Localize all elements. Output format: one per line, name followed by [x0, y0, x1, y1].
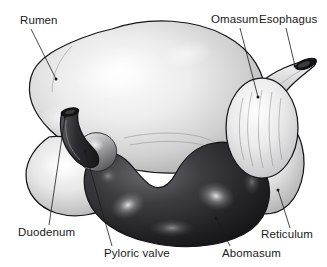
- organ-omasum: [226, 78, 298, 178]
- leader-dot-pyloric-valve: [84, 150, 87, 153]
- label-duodenum: Duodenum: [18, 226, 75, 238]
- leader-dot-esophagus: [294, 65, 297, 68]
- label-reticulum: Reticulum: [261, 228, 313, 240]
- label-esophagus: Esophagus: [259, 13, 318, 25]
- leader-dot-abomasum: [215, 217, 218, 220]
- leader-dot-reticulum: [277, 189, 280, 192]
- label-pyloric-valve: Pyloric valve: [104, 247, 170, 259]
- leader-dot-duodenum: [64, 116, 67, 119]
- ruminant-stomach-diagram: Rumen Omasum Esophagus Duodenum Pyloric …: [0, 0, 327, 267]
- label-abomasum: Abomasum: [222, 247, 281, 259]
- leader-dot-rumen: [55, 78, 58, 81]
- label-rumen: Rumen: [20, 14, 58, 26]
- leader-esophagus: [286, 28, 295, 66]
- figure-canvas: Rumen Omasum Esophagus Duodenum Pyloric …: [0, 0, 327, 267]
- label-omasum: Omasum: [211, 13, 258, 25]
- leader-dot-omasum: [257, 96, 260, 99]
